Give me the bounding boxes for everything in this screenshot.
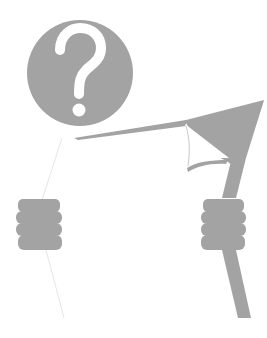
illustration: ?	[0, 0, 267, 338]
figure-svg	[0, 0, 267, 338]
right-hand-icon	[201, 199, 246, 250]
question-head-icon	[27, 20, 133, 126]
left-hand-icon	[16, 199, 62, 250]
